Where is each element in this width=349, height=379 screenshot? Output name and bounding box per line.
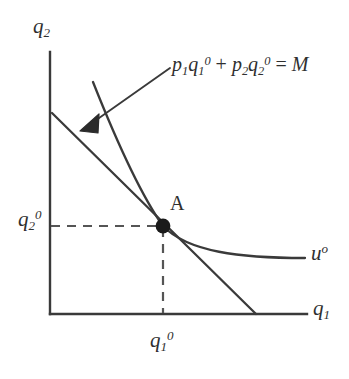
point-a-marker — [156, 219, 171, 234]
budget-equation-label: p1q10 + p2q20 = M — [172, 54, 308, 74]
indifference-curve-label: uo — [311, 243, 328, 264]
indifference-curve-budget-line-figure: q2 q1 q20 q10 uo A p1q10 + p2q20 = M — [0, 0, 349, 379]
x-axis-label: q1 — [313, 298, 330, 319]
annotation-arrowhead — [80, 114, 99, 133]
point-a-label: A — [170, 193, 184, 213]
x-tick-label-q1-0: q10 — [150, 330, 174, 351]
y-tick-label-q2-0: q20 — [18, 209, 42, 230]
y-axis-label: q2 — [33, 16, 50, 37]
indifference-curve — [93, 82, 305, 258]
annotation-leader-line — [92, 68, 170, 123]
